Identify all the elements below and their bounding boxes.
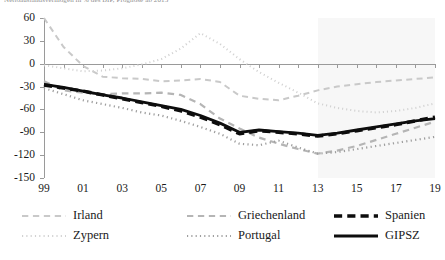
legend-item-zypern[interactable]: Zypern — [22, 229, 109, 243]
legend-item-spanien[interactable]: Spanien — [334, 209, 425, 223]
x-axis-label: 01 — [68, 183, 98, 195]
legend-label: Spanien — [385, 209, 425, 223]
legend-item-griechenland[interactable]: Griechenland — [187, 209, 305, 223]
legend-item-portugal[interactable]: Portugal — [187, 229, 280, 243]
y-axis-label: -30 — [0, 81, 35, 93]
legend-swatch-portugal — [187, 230, 231, 242]
series-line-zypern — [44, 33, 435, 112]
series-lines-layer — [44, 18, 435, 178]
legend-swatch-zypern — [22, 230, 66, 242]
y-axis-label: 0 — [0, 58, 35, 70]
y-tick — [40, 178, 44, 179]
legend-label: GIPSZ — [385, 229, 420, 243]
x-axis-label: 07 — [185, 183, 215, 195]
x-axis-label: 03 — [107, 183, 137, 195]
series-line-portugal — [44, 88, 435, 154]
chart-caption-clipped: Nettoauslandsvermögen in % des BIP, Prog… — [4, 0, 304, 6]
x-axis-label: 19 — [420, 183, 445, 195]
legend-label: Irland — [73, 209, 103, 223]
legend-label: Portugal — [238, 229, 280, 243]
legend-item-irland[interactable]: Irland — [22, 209, 103, 223]
y-axis-label: -120 — [0, 149, 35, 161]
y-axis-label: -150 — [0, 172, 35, 184]
chart-legend: IrlandGriechenlandSpanienZypernPortugalG… — [22, 205, 432, 251]
y-axis-label: 60 — [0, 12, 35, 24]
y-axis-label: -90 — [0, 126, 35, 138]
legend-swatch-spanien — [334, 210, 378, 222]
x-tick — [435, 64, 436, 68]
legend-label: Zypern — [73, 229, 109, 243]
x-axis-label: 13 — [303, 183, 333, 195]
x-axis-label: 99 — [29, 183, 59, 195]
series-line-irland — [44, 18, 435, 100]
x-axis-label: 17 — [381, 183, 411, 195]
legend-label: Griechenland — [238, 209, 305, 223]
x-axis-label: 09 — [225, 183, 255, 195]
legend-swatch-griechenland — [187, 210, 231, 222]
plot-area — [44, 18, 435, 178]
y-axis-label: -60 — [0, 103, 35, 115]
legend-swatch-gipsz — [334, 230, 378, 242]
x-axis-label: 11 — [264, 183, 294, 195]
y-axis-label: 30 — [0, 35, 35, 47]
x-axis-label: 15 — [342, 183, 372, 195]
legend-swatch-irland — [22, 210, 66, 222]
legend-item-gipsz[interactable]: GIPSZ — [334, 229, 420, 243]
x-axis-label: 05 — [146, 183, 176, 195]
